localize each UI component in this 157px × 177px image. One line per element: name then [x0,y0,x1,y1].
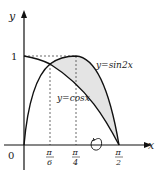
svg-text:6: 6 [47,158,52,167]
y-axis-arrow-icon [21,10,27,18]
graph-figure: y x 0 1 y=sin2x y=cosx π 6 π 4 π 2 [0,0,157,177]
origin-label: 0 [8,150,14,161]
y-tick-1: 1 [11,51,17,62]
x-axis-label: x [148,139,155,152]
x-tick-pi-4: π 4 [72,148,81,167]
label-cosx: y=cosx [56,93,90,103]
svg-text:π: π [72,148,79,157]
svg-text:2: 2 [115,158,121,167]
label-sin2x: y=sin2x [95,60,133,70]
x-tick-pi-2: π 2 [115,148,124,167]
x-tick-pi-6: π 6 [46,148,55,167]
svg-text:π: π [46,148,53,157]
svg-text:4: 4 [72,158,78,167]
rotation-icon [91,139,102,151]
svg-text:π: π [115,148,122,157]
y-axis-label: y [8,10,16,23]
